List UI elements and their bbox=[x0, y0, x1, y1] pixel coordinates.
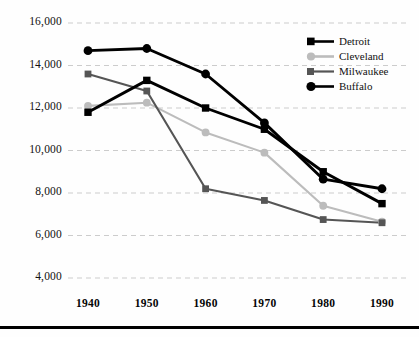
x-axis-tick-label: 1940 bbox=[58, 297, 118, 309]
y-axis-tick-label: 16,000 bbox=[4, 15, 62, 27]
data-point-cleveland-1950 bbox=[143, 99, 151, 107]
data-point-cleveland-1970 bbox=[261, 149, 269, 157]
y-axis-tick-label: 12,000 bbox=[4, 100, 62, 112]
x-axis-tick-label: 1990 bbox=[352, 297, 412, 309]
data-point-cleveland-1960 bbox=[202, 129, 210, 137]
y-axis-tick-label: 14,000 bbox=[4, 58, 62, 70]
series-line-milwaukee bbox=[88, 74, 382, 223]
data-point-milwaukee-1960 bbox=[202, 185, 209, 192]
data-point-detroit-1980 bbox=[320, 168, 327, 175]
y-axis-tick-label: 10,000 bbox=[4, 143, 62, 155]
legend-label-cleveland: Cleveland bbox=[339, 49, 384, 64]
data-point-detroit-1950 bbox=[143, 77, 150, 84]
legend-item-cleveland: Cleveland bbox=[305, 49, 417, 64]
y-axis-tick-label: 6,000 bbox=[4, 228, 62, 240]
data-point-cleveland-1980 bbox=[319, 202, 327, 210]
series-line-cleveland bbox=[88, 103, 382, 222]
legend-item-milwaukee: Milwaukee bbox=[305, 64, 417, 79]
x-axis-tick-label: 1980 bbox=[293, 297, 353, 309]
data-point-milwaukee-1990 bbox=[379, 219, 386, 226]
bottom-divider-rule bbox=[0, 326, 419, 329]
legend-label-detroit: Detroit bbox=[339, 34, 370, 49]
chart-figure: 16,00014,00012,00010,0008,0006,0004,000 … bbox=[0, 0, 419, 337]
data-point-milwaukee-1950 bbox=[143, 88, 150, 95]
y-axis-tick-label: 8,000 bbox=[4, 185, 62, 197]
legend-swatch-cleveland bbox=[305, 49, 335, 64]
y-axis-tick-label: 4,000 bbox=[4, 270, 62, 282]
data-point-detroit-1990 bbox=[378, 200, 385, 207]
legend-label-milwaukee: Milwaukee bbox=[339, 64, 388, 79]
x-axis-tick-label: 1950 bbox=[117, 297, 177, 309]
x-axis-tick-label: 1970 bbox=[234, 297, 294, 309]
legend-swatch-detroit bbox=[305, 34, 335, 49]
legend-swatch-buffalo bbox=[305, 79, 335, 94]
legend-label-buffalo: Buffalo bbox=[339, 79, 372, 94]
data-point-buffalo-1950 bbox=[142, 44, 151, 53]
data-point-milwaukee-1970 bbox=[261, 197, 268, 204]
data-point-buffalo-1980 bbox=[319, 175, 328, 184]
chart-legend: Detroit Cleveland Milwaukee Buffalo bbox=[305, 34, 417, 94]
data-point-detroit-1960 bbox=[202, 104, 209, 111]
data-point-milwaukee-1980 bbox=[320, 216, 327, 223]
data-point-detroit-1940 bbox=[84, 109, 91, 116]
data-point-buffalo-1940 bbox=[84, 46, 93, 55]
legend-item-buffalo: Buffalo bbox=[305, 79, 417, 94]
data-point-milwaukee-1940 bbox=[85, 71, 92, 78]
data-point-buffalo-1970 bbox=[260, 118, 269, 127]
data-point-buffalo-1990 bbox=[378, 184, 387, 193]
data-point-buffalo-1960 bbox=[201, 70, 210, 79]
legend-swatch-milwaukee bbox=[305, 64, 335, 79]
legend-item-detroit: Detroit bbox=[305, 34, 417, 49]
x-axis-tick-label: 1960 bbox=[176, 297, 236, 309]
